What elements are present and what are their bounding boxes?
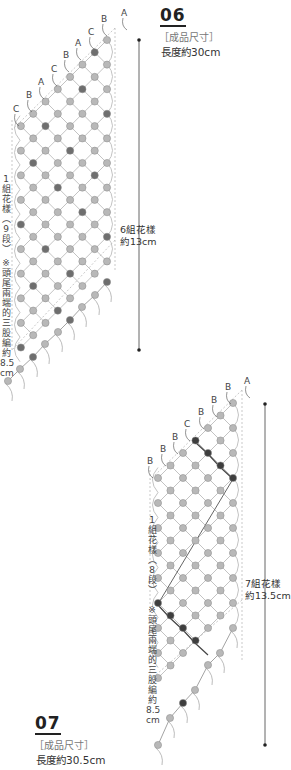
pattern-07-repeat-count: 7組花樣 (245, 578, 291, 590)
strand-label: A (121, 8, 128, 18)
pattern-06-left-repeat-label: 1組花樣︵9段︶ (0, 174, 12, 254)
strand-label: C (88, 27, 94, 37)
pattern-06-repeat-count: 6組花樣 (120, 224, 157, 236)
strand-label: C (51, 64, 57, 74)
pattern-06-left-note-label: ※頭尾兩端的三股編約8.5cm (0, 258, 12, 378)
strand-label: B (211, 395, 217, 405)
strand-label: B (147, 456, 153, 466)
pattern-07-left-note-label: ※頭尾兩端的三股編約8.5cm (146, 605, 158, 725)
pattern-06-size-heading: ［成品尺寸］ (159, 31, 219, 45)
pattern-07-repeat-length: 約13.5cm (245, 590, 291, 602)
pattern-07-repeat-label: 7組花樣 約13.5cm (245, 578, 291, 602)
strand-label: A (244, 376, 251, 386)
strand-label: B (198, 407, 204, 417)
strand-label: B (63, 50, 69, 60)
pattern-07-number: 07 (35, 714, 61, 735)
strand-label: A (75, 38, 82, 48)
strand-label: B (225, 382, 231, 392)
strand-label: A (38, 77, 45, 87)
strand-label: C (13, 104, 19, 114)
pattern-06-number: 06 (160, 6, 186, 27)
strand-label: B (101, 14, 107, 24)
pattern-07-size-value: 長度約30.5cm (36, 753, 105, 767)
pattern-07-left-repeat-label: 1組花樣︵8段︶ (146, 515, 158, 595)
strand-label: C (184, 419, 190, 429)
strand-label: B (172, 432, 178, 442)
pattern-06-repeat-label: 6組花樣 約13cm (120, 224, 157, 248)
strand-label: B (160, 444, 166, 454)
strand-label: B (26, 90, 32, 100)
pattern-06-repeat-length: 約13cm (120, 236, 157, 248)
pattern-07-size-heading: ［成品尺寸］ (34, 739, 94, 753)
pattern-06-size-value: 長度約30cm (161, 45, 220, 59)
